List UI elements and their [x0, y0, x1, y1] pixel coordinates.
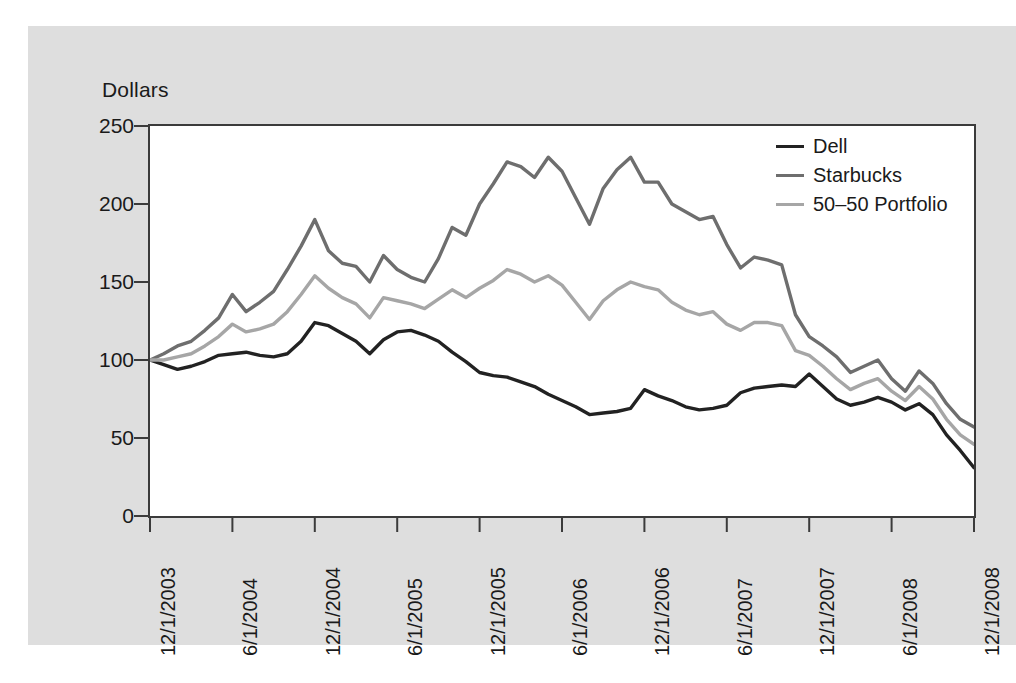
x-axis-tick-label: 12/1/2008	[981, 567, 1004, 656]
legend-item: Dell	[776, 132, 976, 161]
chart-figure: Dollars 050100150200250 12/1/20036/1/200…	[0, 0, 1016, 683]
legend-item: 50–50 Portfolio	[776, 190, 976, 219]
legend-swatch-icon	[776, 145, 804, 148]
y-axis-tick-label: 150	[99, 270, 134, 294]
legend-label: Dell	[813, 135, 847, 158]
legend-label: Starbucks	[813, 164, 902, 187]
y-axis-tick-label: 0	[122, 504, 134, 528]
x-axis-tick-label: 12/1/2003	[157, 567, 180, 656]
legend-swatch-icon	[776, 203, 804, 206]
x-axis-tick-label: 12/1/2005	[487, 567, 510, 656]
legend-item: Starbucks	[776, 161, 976, 190]
legend-swatch-icon	[776, 174, 804, 177]
x-axis-tick-label: 12/1/2006	[651, 567, 674, 656]
series-line	[150, 323, 974, 468]
x-axis-tick-label: 12/1/2004	[322, 567, 345, 656]
chart-legend: DellStarbucks50–50 Portfolio	[776, 132, 976, 219]
x-axis-tick-label: 6/1/2007	[734, 578, 757, 656]
x-axis-tick-label: 6/1/2005	[404, 578, 427, 656]
legend-label: 50–50 Portfolio	[813, 193, 948, 216]
x-axis-tick-label: 6/1/2006	[569, 578, 592, 656]
y-axis-tick-label: 250	[99, 114, 134, 138]
x-axis-tick-label: 6/1/2008	[899, 578, 922, 656]
chart-panel: Dollars 050100150200250 12/1/20036/1/200…	[28, 26, 1016, 645]
y-axis-tick-label: 200	[99, 192, 134, 216]
x-axis-tick-labels: 12/1/20036/1/200412/1/20046/1/200512/1/2…	[28, 538, 1016, 678]
x-axis-tick-label: 6/1/2004	[239, 578, 262, 656]
y-axis-tick-label: 100	[99, 348, 134, 372]
x-axis-tick-label: 12/1/2007	[816, 567, 839, 656]
y-axis-tick-label: 50	[111, 426, 134, 450]
